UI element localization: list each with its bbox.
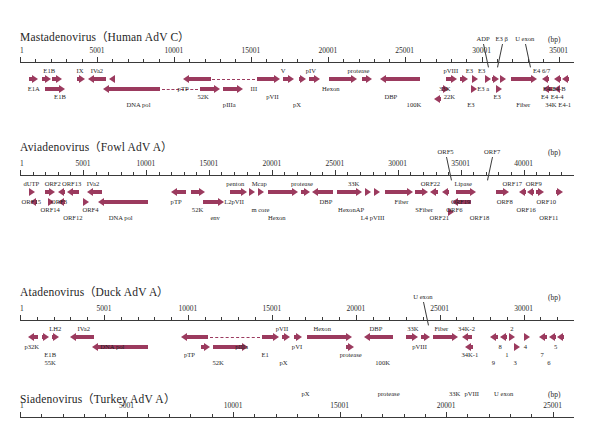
axis-line <box>20 417 574 418</box>
axis-tick <box>159 172 160 175</box>
gene-label: E4-B <box>552 86 566 93</box>
axis-tick-label: 10001 <box>165 46 184 55</box>
gene-label: 6 <box>547 360 550 367</box>
gene-arrow-body <box>545 335 547 339</box>
gene-label: Lipase <box>454 181 472 188</box>
callout-label: ORF5 <box>438 149 454 156</box>
gene-arrow-head <box>284 333 290 341</box>
gene-label: 55K <box>45 360 56 367</box>
gene-arrow-head <box>59 85 65 93</box>
gene-arrow-head <box>442 188 448 196</box>
gene-arrow-head <box>346 333 352 341</box>
axis-tick <box>171 172 172 175</box>
gene-arrow-body <box>73 190 80 194</box>
axis-tick <box>310 172 311 175</box>
gene-arrow-head <box>472 75 478 83</box>
gene-label: SFiber <box>415 207 433 214</box>
axis-tick-label: 15001 <box>330 401 349 410</box>
gene-label: 33K <box>407 326 418 333</box>
gene-label: ORF19 <box>451 199 470 206</box>
axis-tick <box>121 172 122 175</box>
callout-label: protease <box>378 391 400 398</box>
gene-label: III <box>251 86 258 93</box>
gene-arrow-head <box>274 75 280 83</box>
gene-arrow-head <box>424 333 430 341</box>
axis-tick-label: 20001 <box>262 159 281 168</box>
axis-tick <box>389 59 390 62</box>
gene-arrow-head <box>171 188 177 196</box>
gene-label: Fiber <box>516 102 530 109</box>
callout-leader-line <box>487 157 493 181</box>
gene-arrow-head <box>538 188 544 196</box>
gene-arrow-head <box>380 75 386 83</box>
gene-arrow-head <box>490 333 496 341</box>
gene-label: DNA pol <box>100 344 124 351</box>
axis-tick <box>205 59 206 62</box>
gene-label: E3 a <box>477 86 489 93</box>
gene-arrow-head <box>214 85 220 93</box>
axis-tick <box>398 170 399 175</box>
axis-tick <box>259 172 260 175</box>
axis-tick <box>196 172 197 175</box>
axis-tick-label: 30001 <box>388 159 407 168</box>
gene-arrow-body <box>187 335 208 339</box>
gene-label: E1B <box>54 94 66 101</box>
gene-label: dUTP <box>23 181 39 188</box>
gene-label: env <box>210 215 220 222</box>
gene-arrow-head <box>348 343 354 351</box>
axis-tick <box>436 172 437 175</box>
axis-tick <box>467 414 468 417</box>
figure-page: Mastadenovirus（Human AdV C）1500110001150… <box>0 0 592 424</box>
axis-tick <box>209 170 210 175</box>
gene-label: pVII <box>266 94 278 101</box>
axis-tick <box>489 414 490 417</box>
gene-arrow-head <box>527 188 533 196</box>
gene-label: ORF14 <box>40 207 59 214</box>
axis-tick <box>456 317 457 320</box>
gene-label: 9 <box>492 360 495 367</box>
gene-arrow-body <box>496 190 503 194</box>
axis-tick <box>423 317 424 320</box>
gene-label: E3 <box>467 102 474 109</box>
axis-tick-label: 15001 <box>262 304 281 313</box>
gene-arrow-body <box>386 77 420 81</box>
gene-label: m core <box>251 207 269 214</box>
gene-label: L2pVII <box>224 199 244 206</box>
gene-arrow-body <box>555 335 556 339</box>
gene-label: penton <box>226 181 244 188</box>
axis-tick <box>374 59 375 62</box>
gene-arrow-body <box>307 335 346 339</box>
axis-tick <box>540 317 541 320</box>
gene-label: 7 <box>540 352 543 359</box>
callout-leader-line <box>497 44 503 68</box>
gene-arrow-head <box>83 198 89 206</box>
gene-arrow-head <box>92 343 98 351</box>
axis-tick <box>127 412 128 417</box>
gene-label: L4 pVIII <box>361 215 385 222</box>
axis-tick <box>405 57 406 62</box>
gene-label: ORF6 <box>446 207 462 214</box>
gene-arrow-head <box>288 75 294 83</box>
axis-tick <box>312 59 313 62</box>
gene-arrow-body <box>506 335 507 339</box>
axis-tick <box>373 172 374 175</box>
gene-arrow-head <box>241 188 247 196</box>
gene-arrow-head <box>258 188 264 196</box>
gene-arrow-body <box>337 190 356 194</box>
axis-tick <box>461 170 462 175</box>
callout-leader-line <box>423 302 429 326</box>
axis-tick <box>247 172 248 175</box>
axis-tick <box>482 57 483 62</box>
axis-tick <box>356 315 357 320</box>
axis-unit-label: (bp) <box>548 293 561 302</box>
gene-arrow-head <box>519 188 525 196</box>
axis-tick <box>121 317 122 320</box>
gene-label: pVI <box>292 344 302 351</box>
gene-arrow-head <box>351 75 357 83</box>
gene-arrow-body <box>191 190 199 194</box>
gene-label: ORF11 <box>539 215 558 222</box>
axis-tick <box>272 170 273 175</box>
axis-tick <box>382 414 383 417</box>
gene-arrow-body <box>109 87 160 91</box>
gene-label: pTP <box>178 86 189 93</box>
